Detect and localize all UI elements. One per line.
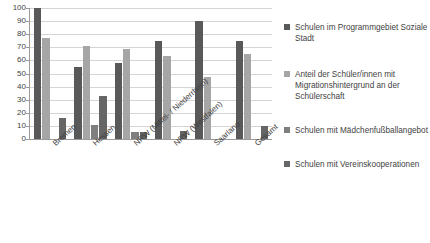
y-axis-tickmark xyxy=(26,21,29,22)
bar-group xyxy=(232,8,272,139)
legend-swatch-icon xyxy=(284,71,290,77)
plot-region: 1009080706050403020100 BremenHessenNRW (… xyxy=(0,0,280,243)
y-axis-tick-label: 20 xyxy=(0,109,26,117)
y-axis-tick-label: 70 xyxy=(0,43,26,51)
bar xyxy=(244,54,251,139)
y-axis-tick-label: 30 xyxy=(0,96,26,104)
x-axis-category-labels: BremenHessenNRW (Mittel- / Niederrhein)N… xyxy=(30,141,272,241)
bar-group xyxy=(111,8,151,139)
legend-item[interactable]: Schulen mit Mädchenfußballangebot xyxy=(284,125,430,136)
y-axis-tickmark xyxy=(26,139,29,140)
y-axis-tickmark xyxy=(26,87,29,88)
legend-item[interactable]: Schulen im Programmgebiet Soziale Stadt xyxy=(284,22,430,44)
bar-group xyxy=(30,8,70,139)
y-axis-tickmark xyxy=(26,47,29,48)
y-axis-tick-label: 80 xyxy=(0,30,26,38)
y-axis-tickmark xyxy=(26,34,29,35)
y-axis-tick-label: 10 xyxy=(0,122,26,130)
y-axis-tick-label: 50 xyxy=(0,70,26,78)
bar xyxy=(34,8,41,139)
y-axis-tickmark xyxy=(26,100,29,101)
y-axis-tickmark xyxy=(26,74,29,75)
bar xyxy=(83,46,90,139)
y-axis-tick-label: 100 xyxy=(0,4,26,12)
bar xyxy=(163,56,170,139)
legend-label: Schulen im Programmgebiet Soziale Stadt xyxy=(295,22,430,44)
legend-swatch-icon xyxy=(284,161,290,167)
y-axis-tick-label: 60 xyxy=(0,56,26,64)
y-axis-tickmark xyxy=(26,8,29,9)
y-axis-tickmark xyxy=(26,126,29,127)
legend-item[interactable]: Anteil der Schüler/innen mit Migrationsh… xyxy=(284,69,430,102)
legend-label: Schulen mit Mädchenfußballangebot xyxy=(295,125,428,136)
y-axis-tick-label: 0 xyxy=(0,135,26,143)
y-axis-tick-label: 40 xyxy=(0,83,26,91)
legend-label: Anteil der Schüler/innen mit Migrationsh… xyxy=(295,69,430,102)
legend-swatch-icon xyxy=(284,127,290,133)
legend-label: Schulen mit Vereinskooperationen xyxy=(295,159,419,170)
legend-item[interactable]: Schulen mit Vereinskooperationen xyxy=(284,159,430,170)
legend-swatch-icon xyxy=(284,24,290,30)
y-axis-tickmark xyxy=(26,60,29,61)
bar xyxy=(123,49,130,139)
bar-group xyxy=(70,8,110,139)
y-axis-tick-labels: 1009080706050403020100 xyxy=(0,8,26,139)
y-axis-tickmark xyxy=(26,113,29,114)
bar-chart: 1009080706050403020100 BremenHessenNRW (… xyxy=(0,0,430,243)
bar xyxy=(42,38,49,139)
y-axis-tick-label: 90 xyxy=(0,17,26,25)
